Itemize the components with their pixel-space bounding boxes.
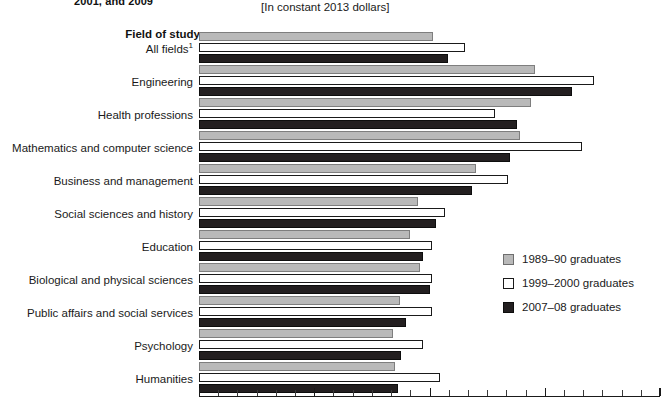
axis-tick [314,388,315,396]
axis-tick [372,390,373,396]
bar [199,65,535,74]
legend-label: 2007–08 graduates [522,301,621,313]
bar [199,241,432,250]
axis-tick [257,390,258,396]
axis-tick [449,390,450,396]
axis-tick [622,390,623,396]
bar-group: All fields1 [199,32,660,63]
legend-swatch [503,302,514,313]
bar [199,307,432,316]
category-label: Mathematics and computer science [12,143,193,155]
axis-tick [641,390,642,396]
bar [199,109,495,118]
bar [199,384,398,393]
bar [199,351,401,360]
bar [199,208,445,217]
bar [199,252,423,261]
bar [199,318,406,327]
bar [199,175,508,184]
bar [199,120,517,129]
category-label: Social sciences and history [54,209,193,221]
axis-tick [506,390,507,396]
bar [199,32,433,41]
chart-title: 2001, and 2009 [74,0,153,7]
axis-tick [564,390,565,396]
bar [199,274,432,283]
bar [199,186,472,195]
bar [199,131,520,140]
axis-tick [583,390,584,396]
axis-tick [391,390,392,396]
bar [199,285,430,294]
axis-tick [660,388,661,396]
axis-tick [602,390,603,396]
legend-label: 1989–90 graduates [522,253,621,265]
axis-tick [545,388,546,396]
axis-tick [295,390,296,396]
category-label: Health professions [98,110,193,122]
bar-group: Mathematics and computer science [199,131,660,162]
bar [199,76,594,85]
bar [199,153,510,162]
axis-tick [353,390,354,396]
bar [199,98,531,107]
legend-item: 2007–08 graduates [503,295,634,319]
bar [199,230,410,239]
category-label: Humanities [135,374,193,386]
bar [199,373,440,382]
category-label: Engineering [132,77,193,89]
bar [199,263,420,272]
category-label: Business and management [54,176,193,188]
bar [199,43,465,52]
legend-item: 1989–90 graduates [503,247,634,271]
bar [199,54,448,63]
axis-tick [410,390,411,396]
axis-tick [430,388,431,396]
bar [199,340,423,349]
axis-title-field-of-study: Field of study [125,28,200,40]
bar [199,87,572,96]
legend-swatch [503,278,514,289]
axis-tick [276,390,277,396]
axis-tick [237,390,238,396]
category-label: Biological and physical sciences [29,275,193,287]
category-label: Psychology [134,341,193,353]
chart-figure: 2001, and 2009 [In constant 2013 dollars… [0,0,665,402]
bar [199,329,393,338]
axis-tick [526,390,527,396]
bar-group: Psychology [199,329,660,360]
chart-legend: 1989–90 graduates1999–2000 graduates2007… [503,247,634,319]
category-label: Education [142,242,193,254]
plot-area: All fields1EngineeringHealth professions… [199,30,660,395]
axis-tick [487,390,488,396]
axis-tick [218,390,219,396]
bar [199,296,400,305]
axis-tick [199,388,200,396]
chart-subtitle: [In constant 2013 dollars] [261,1,390,13]
legend-swatch [503,254,514,265]
bar [199,219,436,228]
bar-group: Business and management [199,164,660,195]
category-label: Public affairs and social services [27,308,193,320]
bar-group: Engineering [199,65,660,96]
axis-tick [468,390,469,396]
axis-tick [333,390,334,396]
bar [199,362,395,371]
legend-label: 1999–2000 graduates [522,277,634,289]
bar [199,142,582,151]
x-axis-line [199,396,660,397]
footnote-marker: 1 [189,41,193,50]
category-label: All fields1 [146,44,193,56]
bar [199,197,418,206]
bar-group: Social sciences and history [199,197,660,228]
bar-group: Health professions [199,98,660,129]
legend-item: 1999–2000 graduates [503,271,634,295]
bar [199,164,476,173]
